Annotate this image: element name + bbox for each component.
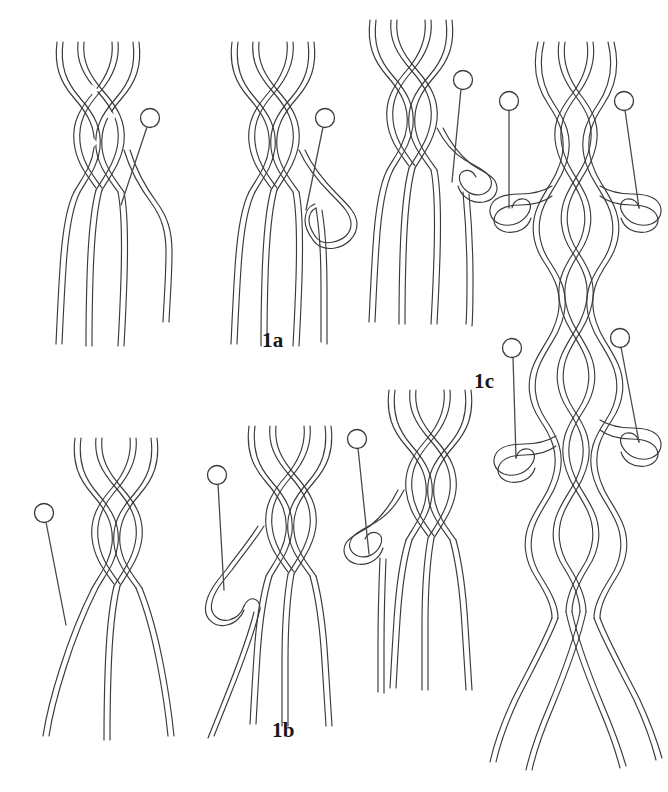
label-1b: 1b [272, 718, 295, 742]
pin-head-icon[interactable] [500, 92, 519, 111]
braid-diagram-canvas: 1a [0, 0, 668, 792]
pin-head-icon[interactable] [611, 329, 630, 348]
label-1a: 1a [262, 328, 284, 352]
pin-head-icon[interactable] [454, 71, 473, 90]
pin-head-icon[interactable] [208, 466, 227, 485]
pin-head-icon[interactable] [141, 109, 160, 128]
braid-figure: 1a [0, 0, 668, 792]
pin-head-icon[interactable] [615, 92, 634, 111]
pin-head-icon[interactable] [35, 504, 54, 523]
label-1c: 1c [474, 369, 494, 393]
pin-head-icon[interactable] [503, 339, 522, 358]
pin-head-icon[interactable] [316, 109, 335, 128]
pin-head-icon[interactable] [348, 430, 367, 449]
